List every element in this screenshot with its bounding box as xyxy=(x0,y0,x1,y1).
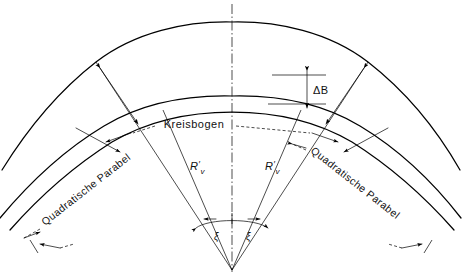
left-inner-radial xyxy=(163,110,232,270)
angle-label-right: ξ xyxy=(246,231,251,243)
right-parabola-label: Quadratische Parabel xyxy=(309,144,403,221)
technical-drawing: ΔB Kreisbogen R′v R′v ξ xyxy=(0,0,462,277)
svg-text:R′v: R′v xyxy=(190,159,205,176)
left-end-terminator xyxy=(30,240,74,253)
right-radius-subscript: v xyxy=(275,167,280,176)
arc-leader-right xyxy=(236,126,310,133)
left-parabola-leader xyxy=(24,229,40,238)
left-radius-label: R xyxy=(190,160,198,172)
diagram-canvas: ΔB Kreisbogen R′v R′v ξ xyxy=(0,0,462,277)
right-radius-label-group: R′v xyxy=(265,159,280,176)
left-radius-label-group: R′v xyxy=(190,159,205,176)
arc-label: Kreisbogen xyxy=(164,118,225,130)
left-radius-subscript: v xyxy=(200,167,205,176)
right-parabola-label-group: Quadratische Parabel xyxy=(290,143,402,221)
left-parabola-label: Quadratische Parabel xyxy=(39,151,133,228)
right-parabola-arrow xyxy=(292,144,306,148)
right-inner-radial xyxy=(232,110,301,270)
left-transition-dimension xyxy=(100,68,138,124)
right-end-terminator xyxy=(388,240,432,253)
angle-label-left: ξ xyxy=(214,231,219,243)
left-parabola-label-group: Quadratische Parabel xyxy=(24,151,133,238)
arc-leader-left-arrow xyxy=(106,133,131,142)
widening-label: ΔB xyxy=(313,84,329,96)
arc-leader-right-arrow xyxy=(312,133,338,142)
right-transition-dimension xyxy=(326,68,364,124)
right-outer-radial xyxy=(232,62,368,270)
svg-text:R′v: R′v xyxy=(265,159,280,176)
right-radius-label: R xyxy=(265,160,273,172)
left-parabola-arrow xyxy=(24,232,40,238)
